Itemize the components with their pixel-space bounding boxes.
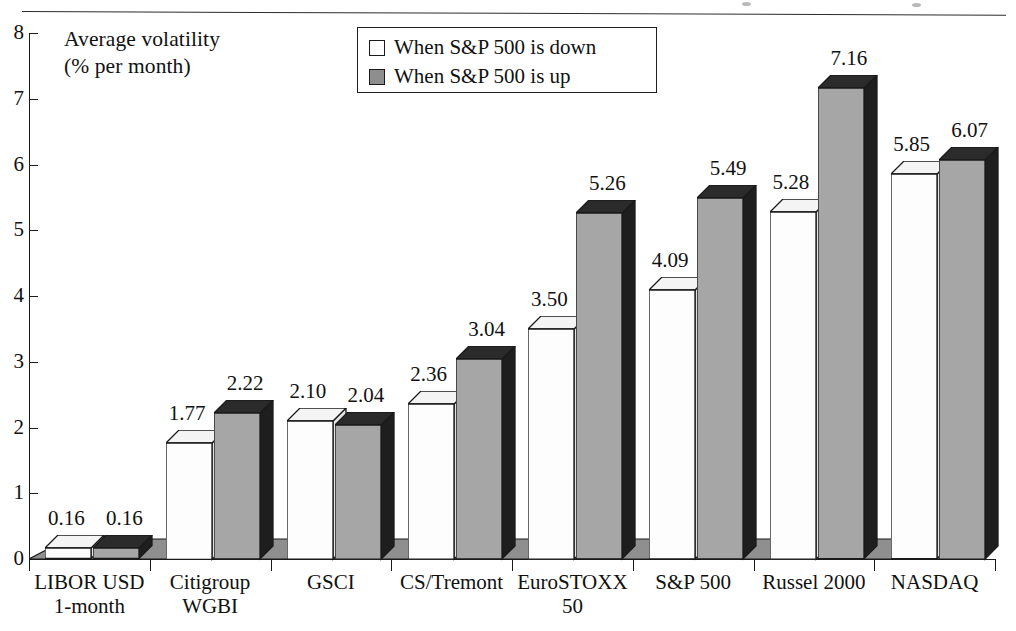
bar-up [214, 413, 260, 559]
y-tick [29, 362, 38, 363]
bar-down [770, 212, 816, 559]
bar-facet [576, 213, 622, 559]
x-category-label-line: 50 [512, 594, 633, 618]
bar-down [45, 548, 91, 559]
legend-item-down: When S&P 500 is down [369, 33, 646, 62]
bar-3d-shape [697, 185, 758, 561]
bar-facet [93, 548, 139, 559]
x-category-label-line: EuroSTOXX [512, 570, 633, 594]
bar-facet [939, 160, 985, 559]
bar-facet [818, 88, 864, 559]
bar-down [408, 404, 454, 559]
data-label: 3.04 [455, 319, 519, 340]
bar-facet [335, 425, 381, 559]
y-axis-title-line1: Average volatility [64, 26, 220, 53]
bar-facet [381, 412, 394, 559]
x-category-label-line: WGBI [150, 594, 271, 618]
y-tick [29, 99, 38, 100]
bar-up [818, 88, 864, 559]
bar-up [456, 359, 502, 559]
bar-down [891, 174, 937, 559]
bar-facet [864, 75, 877, 559]
chart-page: Average volatility (% per month) When S&… [0, 0, 1016, 631]
bar-facet [528, 329, 574, 559]
bar-facet [502, 346, 515, 559]
data-label: 2.22 [213, 373, 277, 394]
x-category-label: EuroSTOXX50 [512, 570, 633, 618]
data-label: 2.36 [397, 364, 461, 385]
data-label: 5.28 [759, 172, 823, 193]
x-category-label: GSCI [271, 570, 392, 594]
data-label: 5.49 [696, 158, 760, 179]
y-tick-label: 8 [0, 22, 24, 42]
x-category-label-line: GSCI [271, 570, 392, 594]
bar-facet [743, 185, 756, 559]
bar-3d-shape [214, 400, 275, 561]
y-tick-label: 7 [0, 88, 24, 108]
data-label: 2.04 [334, 385, 398, 406]
x-category-label-line: LIBOR USD [29, 570, 150, 594]
y-axis-title-line2: (% per month) [64, 53, 220, 80]
data-label: 1.77 [155, 403, 219, 424]
data-label: 3.50 [517, 289, 581, 310]
bar-up [576, 213, 622, 559]
bar-facet [985, 147, 998, 559]
bar-3d-shape [576, 200, 637, 561]
bar-3d-shape [939, 147, 1000, 561]
bar-up [939, 160, 985, 559]
data-label: 4.09 [638, 250, 702, 271]
y-tick-label: 1 [0, 482, 24, 502]
y-tick [29, 296, 38, 297]
x-category-label-line: S&P 500 [633, 570, 754, 594]
x-category-label: CS/Tremont [391, 570, 512, 594]
data-label: 0.16 [92, 508, 156, 529]
y-tick [29, 493, 38, 494]
x-category-label: NASDAQ [874, 570, 995, 594]
x-category-label-line: 1-month [29, 594, 150, 618]
y-tick [29, 559, 38, 560]
x-category-label: CitigroupWGBI [150, 570, 271, 618]
bar-up [93, 548, 139, 559]
bar-facet [214, 413, 260, 559]
y-tick-label: 6 [0, 154, 24, 174]
bar-facet [456, 359, 502, 559]
y-tick-label: 0 [0, 548, 24, 568]
legend-label-up: When S&P 500 is up [394, 66, 571, 87]
legend-swatch-down-icon [369, 40, 385, 56]
x-category-label: LIBOR USD1-month [29, 570, 150, 618]
data-label: 7.16 [817, 48, 881, 69]
data-label: 0.16 [34, 508, 98, 529]
chart-plot-area: Average volatility (% per month) When S&… [0, 0, 1016, 631]
bar-3d-shape [335, 412, 396, 561]
data-label: 2.10 [276, 381, 340, 402]
y-tick [29, 165, 38, 166]
y-tick-label: 5 [0, 219, 24, 239]
bar-3d-shape [456, 346, 517, 561]
chart-legend: When S&P 500 is down When S&P 500 is up [357, 27, 657, 93]
y-tick [29, 428, 38, 429]
legend-label-down: When S&P 500 is down [394, 37, 596, 58]
bar-facet [166, 443, 212, 559]
y-axis-title: Average volatility (% per month) [64, 26, 220, 80]
x-category-label-line: Russel 2000 [754, 570, 875, 594]
bar-up [335, 425, 381, 559]
legend-item-up: When S&P 500 is up [369, 62, 646, 91]
x-category-label: S&P 500 [633, 570, 754, 594]
bar-facet [649, 290, 695, 559]
bar-facet [697, 198, 743, 559]
data-label: 5.26 [575, 173, 639, 194]
bar-facet [260, 400, 273, 559]
x-category-label-line: Citigroup [150, 570, 271, 594]
bar-facet [891, 174, 937, 559]
bar-down [528, 329, 574, 559]
x-category-label: Russel 2000 [754, 570, 875, 594]
y-tick-label: 3 [0, 351, 24, 371]
bar-down [287, 421, 333, 559]
bar-3d-shape [93, 535, 154, 561]
bar-facet [408, 404, 454, 559]
bar-down [166, 443, 212, 559]
bar-facet [45, 548, 91, 559]
bar-3d-shape [818, 75, 879, 561]
y-tick [29, 33, 38, 34]
bar-facet [770, 212, 816, 559]
